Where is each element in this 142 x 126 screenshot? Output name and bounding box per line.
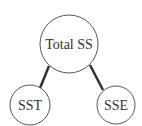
edge-total-to-sse [90, 65, 103, 90]
node-sst-label: SST [18, 98, 43, 113]
edge-total-to-sst [40, 66, 49, 88]
tree-diagram: Total SS SST SSE [0, 0, 142, 126]
node-total-ss: Total SS [40, 15, 98, 73]
node-sst: SST [10, 85, 50, 125]
node-total-ss-label: Total SS [45, 37, 93, 52]
node-sse: SSE [97, 86, 135, 124]
node-sse-label: SSE [104, 98, 128, 113]
